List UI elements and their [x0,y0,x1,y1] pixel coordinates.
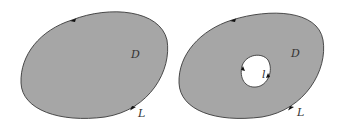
region-label-d: D [290,47,300,60]
green-theorem-figure: D L D l L [0,0,344,128]
hole-label-l: l [262,68,266,81]
region-label-d: D [130,48,140,61]
left-region-d [21,12,168,119]
left-diagram: D L [21,12,168,120]
boundary-label-l: L [296,106,304,119]
boundary-label-l: L [137,107,145,120]
right-diagram: D l L [179,13,324,119]
right-region-d [179,13,324,118]
